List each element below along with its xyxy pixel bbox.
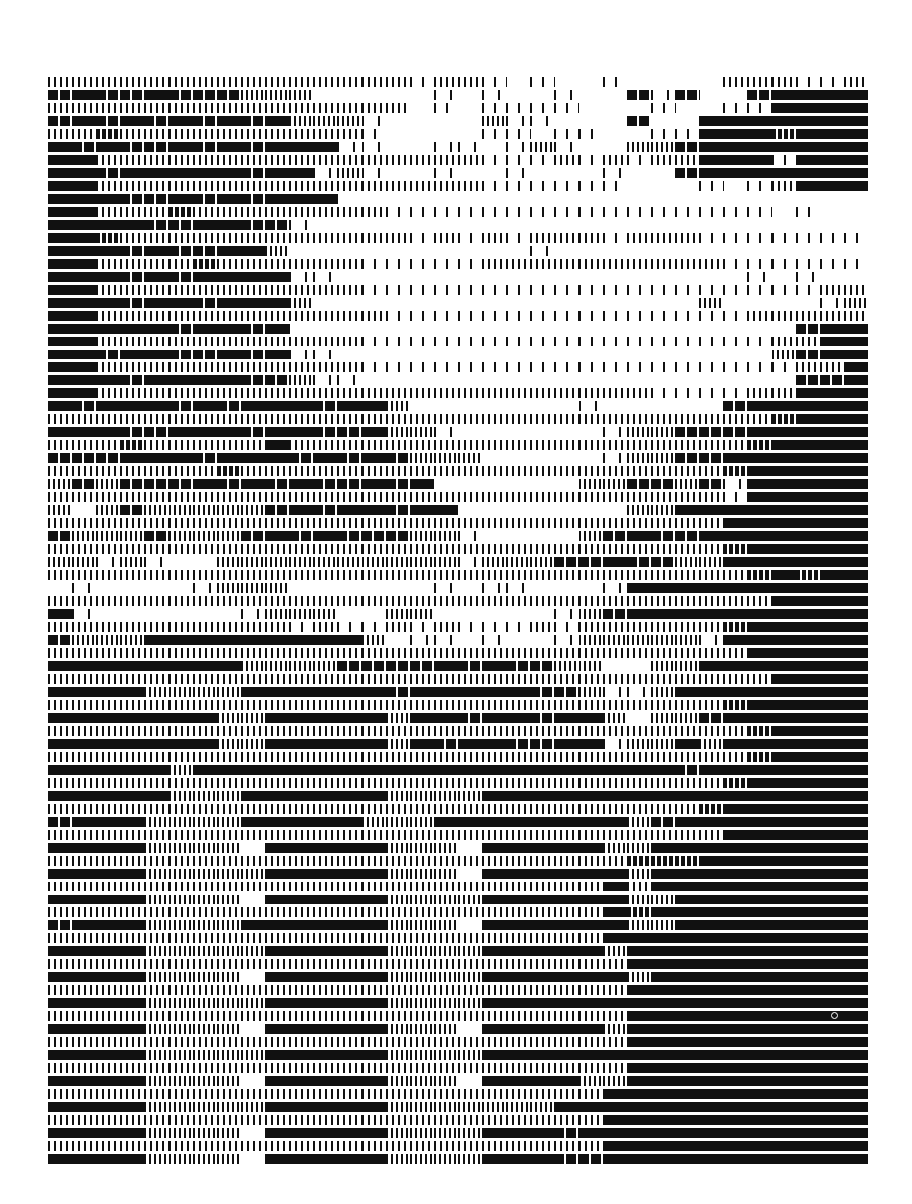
bar-row [48,621,868,634]
block-row [48,478,868,491]
bar-row [48,336,868,349]
bar-row [48,777,868,790]
bar-row [48,413,868,426]
bar-row [48,361,868,374]
block-row [48,141,868,154]
halftone-artwork [48,76,868,1166]
bar-row [48,128,868,141]
block-row [48,582,868,595]
bar-row [48,1062,868,1075]
bar-row [48,751,868,764]
block-row [48,997,868,1010]
block-row [48,297,868,310]
bar-row [48,284,868,297]
block-row [48,1075,868,1088]
bar-row [48,1114,868,1127]
block-row [48,790,868,803]
bar-row [48,1036,868,1049]
block-row [48,660,868,673]
block-row [48,1049,868,1062]
bar-row [48,206,868,219]
bar-row [48,154,868,167]
bar-row [48,543,868,556]
block-row [48,219,868,232]
bar-row [48,932,868,945]
block-row [48,1101,868,1114]
bar-row [48,102,868,115]
block-row [48,193,868,206]
bar-row [48,881,868,894]
bar-row [48,906,868,919]
block-row [48,530,868,543]
block-row [48,868,868,881]
block-row [48,349,868,362]
bar-row [48,725,868,738]
block-row [48,608,868,621]
block-row [48,1127,868,1140]
block-row [48,971,868,984]
block-row [48,245,868,258]
bar-row [48,491,868,504]
block-row [48,556,868,569]
block-row [48,452,868,465]
block-row [48,842,868,855]
bar-row [48,517,868,530]
block-row [48,712,868,725]
bar-row [48,647,868,660]
block-row [48,323,868,336]
bar-row [48,595,868,608]
block-row [48,504,868,517]
bar-row [48,258,868,271]
block-row [48,686,868,699]
block-row [48,816,868,829]
block-row [48,634,868,647]
bar-row [48,232,868,245]
block-row [48,894,868,907]
ring-mark [831,1012,838,1019]
bar-row [48,465,868,478]
bar-row [48,673,868,686]
bar-row [48,439,868,452]
bar-row [48,569,868,582]
block-row [48,738,868,751]
block-row [48,271,868,284]
bar-row [48,699,868,712]
bar-row [48,958,868,971]
bar-row [48,76,868,89]
bar-row [48,310,868,323]
bar-row [48,803,868,816]
block-row [48,945,868,958]
bar-row [48,180,868,193]
block-row [48,400,868,413]
block-row [48,919,868,932]
block-row [48,374,868,387]
bar-row [48,1088,868,1101]
bar-row [48,829,868,842]
block-row [48,426,868,439]
bar-row [48,855,868,868]
block-row [48,167,868,180]
bar-row [48,1010,868,1023]
block-row [48,1153,868,1166]
block-row [48,1023,868,1036]
bar-row [48,1140,868,1153]
block-row [48,115,868,128]
bar-row [48,984,868,997]
block-row [48,764,868,777]
bar-row [48,387,868,400]
block-row [48,89,868,102]
